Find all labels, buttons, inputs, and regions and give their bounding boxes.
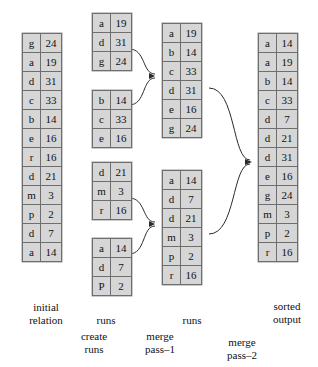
table-row: g24 <box>23 34 62 53</box>
table-row: d31 <box>163 81 202 100</box>
table-body: d21 m3 r16 <box>93 163 132 220</box>
cell-value: 33 <box>41 91 62 110</box>
table-row: e16 <box>259 167 298 186</box>
cell-key: d <box>93 33 111 52</box>
cell-key: a <box>93 239 111 258</box>
cell-value: 24 <box>277 186 298 205</box>
arrow-run2-to-merge1 <box>129 78 155 105</box>
cell-value: 3 <box>181 228 202 247</box>
cell-value: 31 <box>277 148 298 167</box>
cell-key: p <box>259 224 277 243</box>
table-row: a14 <box>163 171 202 190</box>
table-row: a19 <box>259 53 298 72</box>
cell-key: a <box>259 53 277 72</box>
table-body: g24 a19 d31 c33 b14 e16 r16 d21 m3 p2 d7… <box>23 34 62 262</box>
cell-value: 16 <box>277 167 298 186</box>
cell-key: m <box>259 205 277 224</box>
cell-value: 31 <box>181 81 202 100</box>
table-body: a19 d31 g24 <box>93 14 132 71</box>
cell-key: m <box>163 228 181 247</box>
cell-key: g <box>259 186 277 205</box>
table-row: e16 <box>163 100 202 119</box>
table-row: p2 <box>23 205 62 224</box>
table-row: a14 <box>259 34 298 53</box>
table-row: r16 <box>93 201 132 220</box>
cell-key: g <box>163 119 181 138</box>
table-row: e16 <box>93 129 132 148</box>
table-row: a14 <box>93 239 132 258</box>
cell-value: 7 <box>111 258 132 277</box>
cell-key: a <box>163 171 181 190</box>
cell-value: 24 <box>181 119 202 138</box>
cell-value: 33 <box>111 110 132 129</box>
table-body: a14 a19 b14 c33 d7 d21 d31 e16 g24 m3 p2… <box>259 34 298 262</box>
cell-key: b <box>259 72 277 91</box>
arrowhead-merge1 <box>149 73 155 79</box>
cell-value: 33 <box>181 62 202 81</box>
table-row: d7 <box>259 110 298 129</box>
cell-value: 21 <box>181 209 202 228</box>
cell-key: c <box>23 91 41 110</box>
cell-key: d <box>93 258 111 277</box>
diagram-canvas: g24 a19 d31 c33 b14 e16 r16 d21 m3 p2 d7… <box>0 0 318 367</box>
cell-key: a <box>23 243 41 262</box>
cell-value: 24 <box>41 34 62 53</box>
cell-value: 16 <box>41 129 62 148</box>
cell-value: 7 <box>277 110 298 129</box>
cell-value: 16 <box>111 129 132 148</box>
table-sorted-output: a14 a19 b14 c33 d7 d21 d31 e16 g24 m3 p2… <box>258 33 298 262</box>
caption-create-runs: create runs <box>60 330 128 355</box>
cell-key: e <box>259 167 277 186</box>
caption-runs-pass-1: runs <box>82 314 130 327</box>
cell-key: d <box>259 129 277 148</box>
table-row: d7 <box>23 224 62 243</box>
cell-value: 31 <box>41 72 62 91</box>
table-row: d21 <box>93 163 132 182</box>
cell-key: d <box>23 72 41 91</box>
cell-key: a <box>93 14 111 33</box>
table-run-3: d21 m3 r16 <box>92 162 132 220</box>
cell-key: g <box>23 34 41 53</box>
table-row: a19 <box>163 24 202 43</box>
cell-value: 19 <box>181 24 202 43</box>
cell-value: 14 <box>277 34 298 53</box>
cell-key: c <box>259 91 277 110</box>
cell-key: b <box>93 91 111 110</box>
cell-value: 19 <box>277 53 298 72</box>
table-row: d21 <box>23 167 62 186</box>
cell-value: 24 <box>111 52 132 71</box>
table-row: b14 <box>23 110 62 129</box>
cell-key: d <box>23 224 41 243</box>
cell-key: d <box>163 209 181 228</box>
cell-value: 14 <box>111 91 132 110</box>
cell-value: 16 <box>181 100 202 119</box>
table-initial-relation: g24 a19 d31 c33 b14 e16 r16 d21 m3 p2 d7… <box>22 33 62 262</box>
table-row: d31 <box>93 33 132 52</box>
cell-value: 19 <box>41 53 62 72</box>
caption-sorted-output: sorted output <box>258 300 316 325</box>
cell-value: 33 <box>277 91 298 110</box>
cell-key: p <box>163 247 181 266</box>
table-row: a19 <box>93 14 132 33</box>
cell-key: g <box>93 52 111 71</box>
cell-value: 31 <box>111 33 132 52</box>
table-row: r16 <box>259 243 298 262</box>
cell-value: 3 <box>41 186 62 205</box>
table-row: m3 <box>259 205 298 224</box>
cell-key: c <box>93 110 111 129</box>
table-row: m3 <box>163 228 202 247</box>
cell-value: 3 <box>277 205 298 224</box>
cell-key: a <box>23 53 41 72</box>
cell-key: d <box>163 190 181 209</box>
table-row: g24 <box>93 52 132 71</box>
arrowhead-merge2 <box>149 221 155 227</box>
cell-key: a <box>259 34 277 53</box>
table-row: m3 <box>23 186 62 205</box>
cell-value: 2 <box>181 247 202 266</box>
cell-key: e <box>93 129 111 148</box>
table-run-1: a19 d31 g24 <box>92 13 132 71</box>
table-merged-run-2: a14 d7 d21 m3 p2 r16 <box>162 170 202 285</box>
table-row: p2 <box>259 224 298 243</box>
cell-key: d <box>163 81 181 100</box>
table-body: a14 d7 d21 m3 p2 r16 <box>163 171 202 285</box>
